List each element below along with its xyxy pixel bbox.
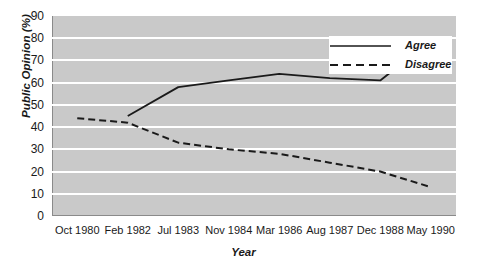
y-axis-tick-label: 80 bbox=[4, 32, 44, 44]
y-axis-tick-label: 60 bbox=[4, 77, 44, 89]
legend: Agree Disagree bbox=[329, 36, 452, 74]
legend-item-agree: Agree bbox=[329, 36, 452, 55]
y-axis-tick-label: 10 bbox=[4, 188, 44, 200]
legend-swatch-solid-icon bbox=[329, 36, 392, 55]
x-axis-title: Year bbox=[0, 246, 487, 258]
y-axis-tick-label: 20 bbox=[4, 166, 44, 178]
series-line-disagree bbox=[77, 118, 431, 187]
legend-label-agree: Agree bbox=[405, 39, 436, 51]
y-axis-tick-label: 30 bbox=[4, 143, 44, 155]
y-axis-tick-label: 50 bbox=[4, 99, 44, 111]
legend-item-disagree: Disagree bbox=[329, 55, 452, 74]
y-axis-tick-label: 0 bbox=[4, 210, 44, 222]
x-axis-tick-label: May 1990 bbox=[401, 224, 461, 236]
chart-figure: Public Opinion (%) 9080706050403020100 A… bbox=[0, 0, 487, 272]
y-axis-tick-label: 90 bbox=[4, 10, 44, 22]
plot-area: Agree Disagree bbox=[52, 16, 456, 216]
legend-label-disagree: Disagree bbox=[405, 58, 451, 70]
legend-swatch-dashed-icon bbox=[329, 55, 392, 74]
y-axis-tick-label: 40 bbox=[4, 121, 44, 133]
y-axis-tick-label: 70 bbox=[4, 54, 44, 66]
